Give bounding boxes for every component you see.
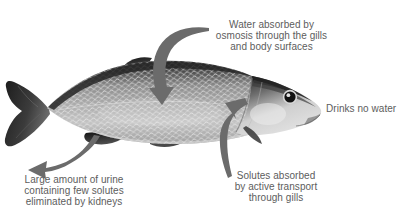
caudal-fin [5,81,50,146]
osmoregulation-figure: Water absorbed by osmosis through the gi… [0,0,404,223]
callout-solutes-absorbed: Solutes absorbed by active transport thr… [227,170,325,204]
callout-water-absorbed: Water absorbed by osmosis through the gi… [205,19,338,53]
callout-urine-eliminated: Large amount of urine containing few sol… [14,174,134,208]
callout-drinks-no-water: Drinks no water [326,103,404,114]
